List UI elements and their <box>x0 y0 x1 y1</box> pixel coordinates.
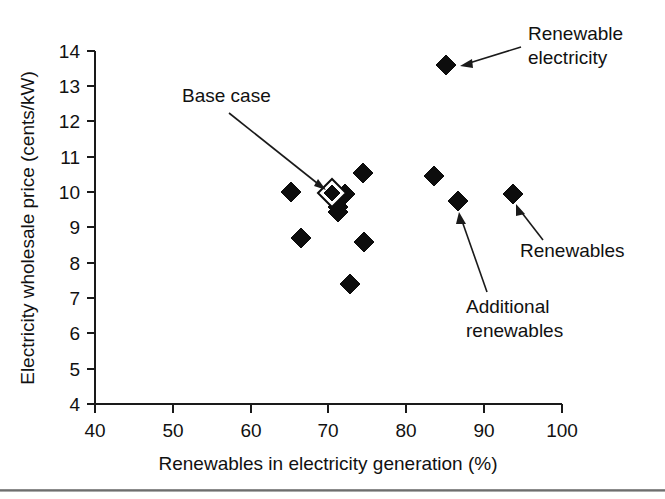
annotation-additional-renewables: Additional renewables <box>456 212 563 341</box>
additional-renewables-label-line2: renewables <box>466 320 563 341</box>
y-tick-label: 12 <box>59 111 80 132</box>
data-markers <box>281 55 523 294</box>
data-point[interactable] <box>448 191 468 211</box>
footer-divider <box>0 489 665 492</box>
base-case-label: Base case <box>182 85 271 106</box>
x-tick-label: 100 <box>546 420 578 441</box>
x-axis-title: Renewables in electricity generation (%) <box>159 453 498 474</box>
base-case-arrowhead <box>314 179 326 190</box>
data-point[interactable] <box>424 166 444 186</box>
annotation-base-case: Base case <box>182 85 326 190</box>
data-point[interactable] <box>436 55 456 75</box>
data-point[interactable] <box>353 163 373 183</box>
data-point[interactable] <box>354 232 374 252</box>
x-tick-label: 40 <box>84 420 105 441</box>
figure-container: 14 13 12 11 10 9 8 7 6 5 4 40 50 60 <box>0 0 665 499</box>
renewable-electricity-label-line2: electricity <box>528 47 608 68</box>
y-tick-label: 5 <box>69 359 80 380</box>
renewable-electricity-label-line1: Renewable <box>528 23 623 44</box>
renewables-label: Renewables <box>520 240 625 261</box>
renewables-arrowhead <box>516 204 525 216</box>
additional-renewables-leader-line <box>461 218 487 292</box>
y-tick-marks <box>87 51 95 404</box>
x-tick-labels: 40 50 60 70 80 90 100 <box>84 420 577 441</box>
y-tick-label: 8 <box>69 253 80 274</box>
annotation-renewables: Renewables <box>516 204 625 261</box>
y-tick-label: 11 <box>60 147 80 168</box>
scatter-plot: 14 13 12 11 10 9 8 7 6 5 4 40 50 60 <box>0 0 665 499</box>
base-case-leader-line <box>229 113 322 187</box>
data-point[interactable] <box>291 228 311 248</box>
annotation-renewable-electricity: Renewable electricity <box>460 23 623 68</box>
data-point[interactable] <box>503 184 523 204</box>
y-tick-labels: 14 13 12 11 10 9 8 7 6 5 4 <box>59 41 81 415</box>
x-tick-label: 70 <box>317 420 338 441</box>
axis-lines <box>95 51 562 404</box>
y-tick-label: 4 <box>69 394 80 415</box>
y-tick-label: 7 <box>69 288 80 309</box>
renewable-electricity-leader-line <box>466 47 521 64</box>
data-point[interactable] <box>340 274 360 294</box>
x-tick-label: 80 <box>395 420 416 441</box>
x-tick-marks <box>95 404 562 413</box>
x-tick-label: 50 <box>162 420 183 441</box>
y-tick-label: 10 <box>59 182 80 203</box>
y-tick-label: 14 <box>59 41 81 62</box>
additional-renewables-label-line1: Additional <box>466 296 549 317</box>
additional-renewables-arrowhead <box>456 212 466 224</box>
x-tick-label: 60 <box>240 420 261 441</box>
data-point[interactable] <box>281 182 301 202</box>
renewable-electricity-arrowhead <box>460 59 473 68</box>
x-tick-label: 90 <box>473 420 494 441</box>
y-tick-label: 9 <box>69 217 80 238</box>
y-tick-label: 13 <box>59 76 80 97</box>
y-axis-title: Electricity wholesale price (cents/kW) <box>17 71 38 385</box>
y-tick-label: 6 <box>69 323 80 344</box>
